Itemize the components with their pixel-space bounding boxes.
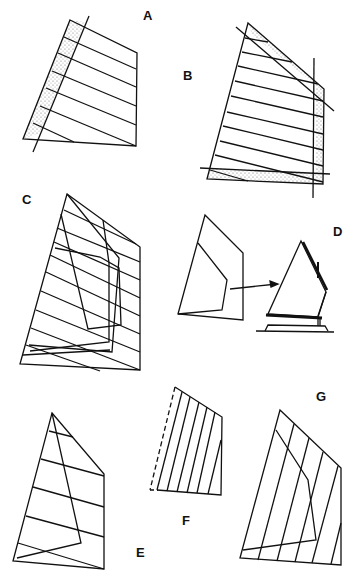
panel-c-outline [20, 194, 140, 370]
panel-label-a: A [143, 9, 152, 22]
sail-diagram-canvas [0, 0, 360, 587]
panel-g-inner-sail [243, 430, 316, 550]
panel-d-drawing [178, 215, 334, 332]
panel-a-sail [23, 16, 137, 152]
boat-sail [268, 241, 326, 317]
waterline [256, 331, 334, 332]
panel-g-sail [240, 410, 341, 565]
panel-a-cut-line [33, 16, 89, 152]
panel-label-c: C [22, 193, 31, 206]
boat-hull [265, 325, 328, 331]
panel-e-inner-sail [17, 413, 81, 558]
panel-d-boat-sketch [256, 241, 334, 332]
panel-label-b: B [183, 69, 192, 82]
panel-label-g: G [316, 390, 326, 403]
panel-g-outline [240, 410, 341, 565]
arrow-right-icon [270, 281, 278, 287]
panel-f-sail [150, 387, 222, 495]
panel-label-d: D [333, 225, 342, 238]
panel-label-f: F [182, 514, 190, 527]
panel-e-sail [13, 413, 104, 569]
panel-b-sail [200, 23, 334, 198]
panel-c-sail [20, 194, 140, 371]
panel-c-inner-sail-1 [29, 194, 119, 352]
panel-d-inner-panel [178, 243, 227, 314]
panel-d-sail-outline [178, 215, 243, 320]
panel-d-arrow-shaft [230, 284, 277, 289]
panel-label-e: E [136, 546, 145, 559]
